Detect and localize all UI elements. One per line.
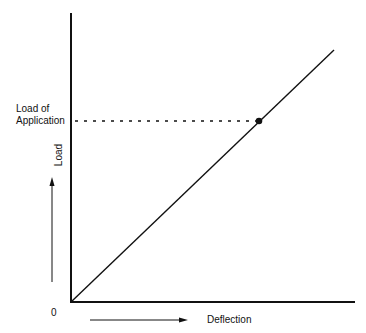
deflection-direction-arrow-icon [90, 318, 188, 323]
load-direction-arrow-icon [50, 177, 55, 282]
load-of-application-label: Load of Application [16, 103, 65, 127]
load-deflection-line [71, 50, 334, 302]
x-axis-label: Deflection [207, 314, 251, 326]
load-of-application-line1: Load of [16, 103, 65, 115]
application-point-dot [256, 118, 263, 125]
origin-label: 0 [51, 307, 57, 319]
y-axis-label: Load [53, 143, 65, 167]
load-of-application-line2: Application [16, 115, 65, 127]
